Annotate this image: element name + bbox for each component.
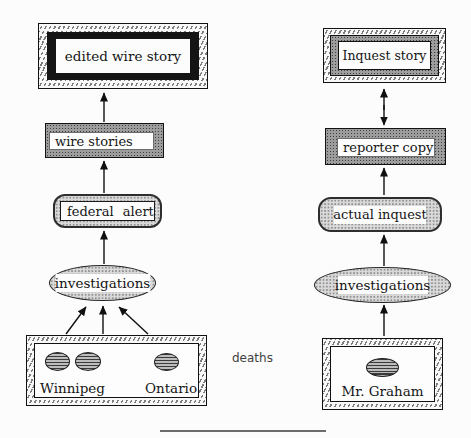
mr-graham-label: Mr. Graham <box>323 383 442 399</box>
deaths-annotation: deaths <box>232 351 273 365</box>
federal-alert-label: federal alert <box>67 204 154 219</box>
dark-band: Inquest story <box>330 35 439 76</box>
arrow-deaths-to-investigations-3 <box>119 307 148 334</box>
person-case-icon <box>366 358 399 377</box>
edited-wire-story-label: edited wire story <box>65 48 181 64</box>
inquest-story-label: Inquest story <box>343 48 427 63</box>
node-mr-graham-box: Mr. Graham <box>322 338 443 410</box>
node-reporter-copy: reporter copy <box>325 128 446 165</box>
actual-inquest-label: actual inquest <box>333 207 426 222</box>
node-label-panel: investigations <box>338 276 428 294</box>
node-wire-stories: wire stories <box>45 123 164 158</box>
node-investigations-right: investigations <box>314 267 451 303</box>
ontario-label: Ontario <box>138 380 204 396</box>
node-investigations-left: investigations <box>49 265 156 301</box>
node-inquest-story: Inquest story <box>323 28 446 83</box>
wire-stories-label: wire stories <box>55 134 133 149</box>
node-label-panel: federal alert <box>60 201 155 221</box>
arrow-deaths-to-investigations-1 <box>66 307 86 334</box>
node-edited-wire-story: edited wire story <box>38 23 208 89</box>
winnipeg-label: Winnipeg <box>40 380 102 396</box>
black-band: edited wire story <box>47 32 199 80</box>
investigations-left-label: investigations <box>55 275 150 291</box>
diagram-canvas: edited wire story wire stories federal a… <box>0 0 471 438</box>
node-federal-alert: federal alert <box>53 194 162 228</box>
death-case-icon <box>154 353 179 371</box>
investigations-right-label: investigations <box>335 277 430 293</box>
node-deaths-box: Winnipeg Ontario <box>26 335 207 406</box>
reporter-copy-label: reporter copy <box>343 140 433 155</box>
death-case-icon <box>75 352 101 371</box>
node-label-panel: reporter copy <box>337 138 435 157</box>
node-label-panel: edited wire story <box>56 39 190 73</box>
node-label-panel: actual inquest <box>334 206 426 224</box>
node-actual-inquest: actual inquest <box>318 197 442 232</box>
death-case-icon <box>45 352 70 371</box>
node-label-panel: wire stories <box>49 132 154 150</box>
node-label-panel: investigations <box>55 274 150 292</box>
node-label-panel: Inquest story <box>338 41 431 70</box>
